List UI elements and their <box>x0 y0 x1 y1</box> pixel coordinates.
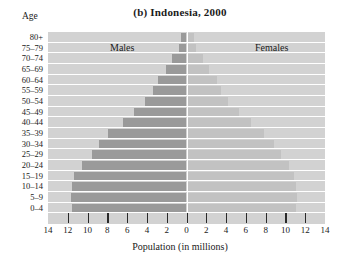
x-axis-tick-label: 12 <box>295 225 315 235</box>
bar-male <box>71 193 187 202</box>
age-tick-label: 45–49 <box>0 107 43 118</box>
bar-female <box>187 65 210 74</box>
bar-male <box>166 65 187 74</box>
bar-male <box>153 86 187 95</box>
x-axis-tick <box>187 213 188 223</box>
x-axis-tick-label: 0 <box>177 225 197 235</box>
bar-male <box>82 161 187 170</box>
age-tick-label: 40–44 <box>0 117 43 128</box>
x-axis-tick-label: 6 <box>236 225 256 235</box>
bar-male <box>158 76 187 85</box>
bar-female <box>187 54 204 63</box>
x-axis-tick <box>107 213 108 223</box>
bar-male <box>134 108 186 117</box>
bar-male <box>99 140 186 149</box>
age-tick-label: 80+ <box>0 32 43 43</box>
age-tick-label: 5–9 <box>0 192 43 203</box>
x-axis-tick <box>48 213 49 223</box>
x-axis-title: Population (in millions) <box>0 241 360 252</box>
bar-male <box>74 172 187 181</box>
bar-female <box>187 150 282 159</box>
bar-female <box>187 76 218 85</box>
x-axis-tick-label: 8 <box>97 225 117 235</box>
x-axis-tick-label: 4 <box>216 225 236 235</box>
bar-female <box>187 193 298 202</box>
age-tick-label: 20–24 <box>0 160 43 171</box>
x-axis-tick <box>88 213 89 223</box>
bar-female <box>187 140 274 149</box>
bar-male <box>72 204 187 213</box>
bar-male <box>145 97 187 106</box>
bar-female <box>187 161 290 170</box>
x-axis-tick <box>266 213 267 223</box>
x-axis-tick <box>147 213 148 223</box>
x-axis-tick <box>167 213 168 223</box>
x-axis-tick-label: 12 <box>58 225 78 235</box>
plot-area <box>48 32 325 224</box>
bar-female <box>187 108 239 117</box>
x-axis-tick <box>127 213 128 223</box>
bar-female <box>187 204 297 213</box>
x-axis-tick-label: 4 <box>137 225 157 235</box>
bar-female <box>187 172 295 181</box>
x-axis-tick-group <box>48 213 325 224</box>
x-axis-tick-label: 2 <box>196 225 216 235</box>
age-tick-label: 30–34 <box>0 139 43 150</box>
x-axis-tick-label: 10 <box>78 225 98 235</box>
age-tick-label: 25–29 <box>0 149 43 160</box>
x-axis-tick-label-group: 141210864202468101214 <box>48 225 325 238</box>
bar-female <box>187 182 297 191</box>
zero-axis-line <box>187 32 188 224</box>
series-label-males: Males <box>110 42 134 53</box>
x-axis-tick-label: 2 <box>157 225 177 235</box>
bar-male <box>92 150 187 159</box>
age-tick-label: 35–39 <box>0 128 43 139</box>
bar-male <box>108 129 186 138</box>
x-axis-tick-label: 10 <box>275 225 295 235</box>
age-tick-label: 70–74 <box>0 53 43 64</box>
bar-female <box>187 33 195 42</box>
x-axis-tick <box>325 213 326 223</box>
x-axis-tick <box>68 213 69 223</box>
age-tick-label: 65–69 <box>0 64 43 75</box>
x-axis-tick <box>206 213 207 223</box>
bar-female <box>187 97 229 106</box>
age-tick-label: 10–14 <box>0 181 43 192</box>
bar-female <box>187 44 197 53</box>
x-axis-tick <box>305 213 306 223</box>
chart-title: (b) Indonesia, 2000 <box>0 6 360 18</box>
age-tick-label: 0–4 <box>0 203 43 214</box>
x-axis-tick <box>226 213 227 223</box>
x-axis-tick-label: 6 <box>117 225 137 235</box>
series-label-females: Females <box>255 42 288 53</box>
bar-male <box>179 44 187 53</box>
age-axis-caption: Age <box>22 11 38 21</box>
x-axis-tick <box>246 213 247 223</box>
age-tick-label: 15–19 <box>0 171 43 182</box>
bar-male <box>72 182 187 191</box>
x-axis-tick <box>285 213 286 223</box>
age-tick-label-group: 80+75–7970–7465–6960–6455–5950–5445–4940… <box>0 32 45 224</box>
bar-female <box>187 86 222 95</box>
x-axis-tick-label: 14 <box>38 225 58 235</box>
bar-male <box>172 54 187 63</box>
age-tick-label: 55–59 <box>0 85 43 96</box>
population-pyramid-figure: (b) Indonesia, 2000 Age 80+75–7970–7465–… <box>0 0 360 274</box>
age-tick-label: 50–54 <box>0 96 43 107</box>
x-axis-tick-label: 14 <box>315 225 335 235</box>
bar-male <box>123 118 186 127</box>
age-tick-label: 60–64 <box>0 75 43 86</box>
bar-female <box>187 129 264 138</box>
bar-female <box>187 118 251 127</box>
x-axis-tick-label: 8 <box>256 225 276 235</box>
age-tick-label: 75–79 <box>0 43 43 54</box>
